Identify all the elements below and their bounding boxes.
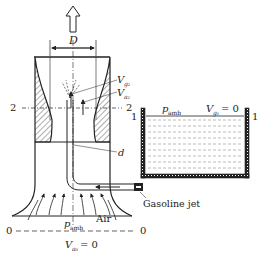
section-0-right-label: 0	[140, 225, 146, 236]
section-1-left-label: 1	[131, 111, 137, 122]
section-1-right-label: 1	[252, 111, 258, 122]
p-amb-tank-subscript: amb	[168, 109, 181, 116]
inlet-bell-left	[12, 142, 35, 216]
v-g2-subscript: g₂	[124, 80, 131, 88]
v-a2-subscript: a₂	[124, 93, 131, 100]
p-amb-inlet-subscript: amb	[70, 224, 83, 231]
v-g1-equals: = 0	[221, 103, 239, 114]
gasoline-jet-label: Gasoline jet	[143, 198, 200, 209]
v-a0-subscript: a₀	[72, 245, 79, 252]
venturi-left-wall	[35, 57, 52, 142]
carburetor-diagram: D 2 2 V g₂ V a₂ d	[0, 0, 261, 258]
venturi-right-wall	[94, 57, 110, 142]
air-label: Air	[95, 213, 111, 224]
tube-diameter-label: d	[118, 147, 124, 158]
v-g1-subscript: g₁	[213, 109, 219, 117]
v-a0-equals: = 0	[80, 239, 98, 250]
section-0-left-label: 0	[6, 225, 12, 236]
outflow-up-arrow-icon	[66, 6, 80, 32]
section-2-left-label: 2	[10, 102, 16, 113]
float-chamber	[141, 108, 249, 178]
